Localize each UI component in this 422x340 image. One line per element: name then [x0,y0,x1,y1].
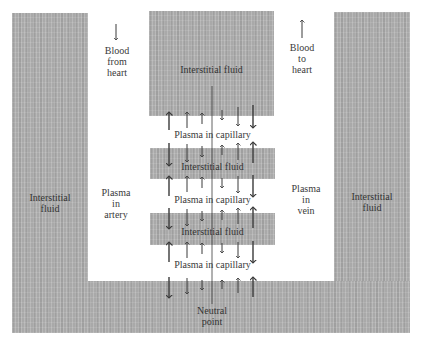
capillary-3-label: Plasma in capillary [150,259,275,270]
plasma-in-vein-label: Plasma in vein [288,183,324,216]
blood-from-heart-label: Blood from heart [100,45,134,78]
middle-interstitial-fluid-label: Interstitial fluid [150,161,275,172]
neutral-point-label: Neutral point [190,305,234,327]
capillary-1-label: Plasma in capillary [150,129,275,140]
plasma-in-artery-label: Plasma in artery [98,187,134,220]
capillary-2-label: Plasma in capillary [150,194,275,205]
blood-to-heart-label: Blood to heart [285,42,319,75]
top-interstitial-fluid-label: Interstitial fluid [149,64,274,75]
right-interstitial-fluid-label: Interstitial fluid [340,191,404,213]
left-interstitial-fluid-label: Interstitial fluid [18,192,82,214]
lower-interstitial-fluid-label: Interstitial fluid [150,226,275,237]
